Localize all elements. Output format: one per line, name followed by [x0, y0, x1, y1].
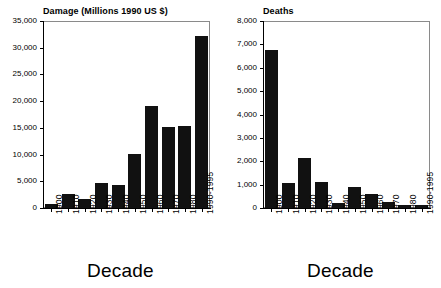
x-tick-label: 1990-1995: [206, 172, 215, 214]
x-tick-label: 1970: [392, 194, 401, 214]
x-tick-mark: [321, 209, 322, 212]
y-tick-label: 35,000: [0, 17, 37, 25]
y-tick-mark: [40, 128, 43, 129]
x-tick-mark: [202, 209, 203, 212]
x-tick-mark: [405, 209, 406, 212]
chart-title-deaths: Deaths: [263, 6, 294, 16]
chart-panel-deaths: Deaths 01,0002,0003,0004,0005,0006,0007,…: [220, 0, 441, 288]
bar-series-deaths: [263, 21, 430, 208]
y-tick-label: 4,000: [220, 111, 257, 119]
y-tick-mark: [260, 161, 263, 162]
y-tick-mark: [260, 91, 263, 92]
y-tick-label: 3,000: [220, 134, 257, 142]
x-tick-mark: [288, 209, 289, 212]
x-tick-label: 1950: [359, 194, 368, 214]
x-tick-mark: [152, 209, 153, 212]
y-tick-mark: [260, 44, 263, 45]
y-axis-line: [43, 21, 44, 209]
x-tick-mark: [68, 209, 69, 212]
x-tick-label: 1980: [409, 194, 418, 214]
y-tick-mark: [40, 21, 43, 22]
bar: [265, 50, 278, 208]
y-tick-mark: [40, 101, 43, 102]
y-tick-mark: [40, 48, 43, 49]
y-tick-mark: [260, 68, 263, 69]
x-tick-label: 1970: [172, 194, 181, 214]
x-tick-mark: [85, 209, 86, 212]
x-tick-label: 1950: [139, 194, 148, 214]
y-tick-mark: [260, 21, 263, 22]
y-tick-label: 5,000: [220, 87, 257, 95]
x-tick-label: 1900: [275, 194, 284, 214]
y-tick-label: 25,000: [0, 70, 37, 78]
x-tick-mark: [168, 209, 169, 212]
y-tick-mark: [40, 155, 43, 156]
y-tick-label: 5,000: [0, 177, 37, 185]
bar-series-damage: [43, 21, 210, 208]
x-tick-label: 1910: [292, 194, 301, 214]
y-tick-mark: [260, 185, 263, 186]
x-tick-label: 1980: [189, 194, 198, 214]
x-tick-mark: [118, 209, 119, 212]
x-tick-mark: [355, 209, 356, 212]
y-tick-label: 2,000: [220, 157, 257, 165]
x-tick-label: 1920: [309, 194, 318, 214]
x-tick-label: 1920: [89, 194, 98, 214]
x-tick-label: 1910: [72, 194, 81, 214]
x-tick-label: 1940: [342, 194, 351, 214]
x-axis-title-deaths: Decade: [307, 261, 374, 281]
x-axis-title-damage: Decade: [87, 261, 154, 281]
x-tick-label: 1960: [156, 194, 165, 214]
y-axis-line: [263, 21, 264, 209]
x-tick-mark: [101, 209, 102, 212]
chart-panel-damage: Damage (Millions 1990 US $) 05,00010,000…: [0, 0, 220, 288]
chart-title-damage: Damage (Millions 1990 US $): [43, 6, 168, 16]
x-tick-label: 1930: [105, 194, 114, 214]
y-tick-label: 0: [0, 204, 37, 212]
y-tick-mark: [40, 181, 43, 182]
y-tick-label: 6,000: [220, 64, 257, 72]
x-tick-mark: [388, 209, 389, 212]
y-tick-label: 7,000: [220, 40, 257, 48]
bar: [145, 106, 158, 208]
x-tick-mark: [305, 209, 306, 212]
x-tick-label: 1900: [55, 194, 64, 214]
y-tick-mark: [260, 115, 263, 116]
x-tick-label: 1960: [376, 194, 385, 214]
y-tick-label: 15,000: [0, 124, 37, 132]
y-tick-label: 8,000: [220, 17, 257, 25]
x-tick-label: 1940: [122, 194, 131, 214]
x-tick-mark: [338, 209, 339, 212]
x-tick-label: 1930: [325, 194, 334, 214]
x-tick-mark: [422, 209, 423, 212]
x-tick-mark: [185, 209, 186, 212]
x-tick-label: 1990-1995: [426, 172, 435, 214]
y-tick-label: 0: [220, 204, 257, 212]
x-tick-mark: [271, 209, 272, 212]
y-tick-label: 20,000: [0, 97, 37, 105]
y-tick-label: 30,000: [0, 44, 37, 52]
y-tick-mark: [260, 138, 263, 139]
y-tick-mark: [40, 74, 43, 75]
y-tick-label: 10,000: [0, 151, 37, 159]
x-tick-mark: [51, 209, 52, 212]
figure-bar-charts: Damage (Millions 1990 US $) 05,00010,000…: [0, 0, 441, 288]
x-tick-mark: [135, 209, 136, 212]
y-tick-label: 1,000: [220, 181, 257, 189]
x-tick-mark: [372, 209, 373, 212]
